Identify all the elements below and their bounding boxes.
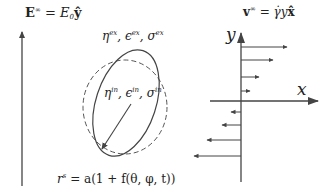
- exterior-properties-label: ηex, ϵex, σex: [102, 29, 164, 43]
- radius-equation: rs = a(1 + f(θ, φ, t)): [57, 172, 175, 186]
- interior-properties-label: ηin, ϵin, σin: [104, 86, 162, 100]
- vfield-label: v∞ = γ̇yx̂: [243, 5, 295, 19]
- x-axis-label: x: [297, 79, 307, 99]
- radius-arrow: [102, 104, 131, 149]
- efield-label: E∞ = E0ŷ: [25, 5, 81, 20]
- y-axis-label: y: [226, 24, 236, 44]
